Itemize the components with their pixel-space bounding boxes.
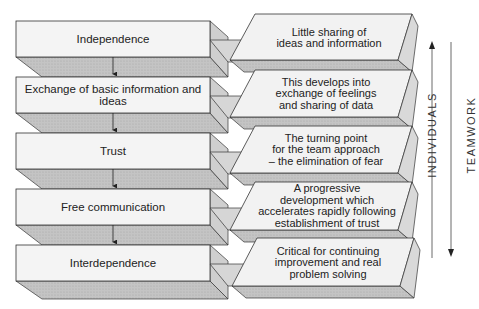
description-1: Little sharing of ideas and information — [255, 18, 403, 58]
description-3-line-3: – the elimination of fear — [269, 156, 383, 168]
stage-label-2: Exchange of basic information and ideas — [16, 77, 210, 113]
stage-label-3: Trust — [16, 133, 210, 169]
description-5-line-3: problem solving — [289, 269, 366, 281]
up-arrow-icon — [429, 41, 435, 49]
description-4-line-1: A progressive — [294, 183, 361, 195]
teamwork-diagram: Independence Exchange of basic informati… — [0, 0, 479, 309]
description-2: This develops into exchange of feelings … — [250, 73, 402, 115]
stage-label-1: Independence — [16, 21, 210, 57]
down-arrow-icon — [448, 249, 454, 257]
description-3: The turning point for the team approach … — [250, 129, 402, 171]
stage-label-4: Free communication — [16, 189, 210, 225]
description-2-line-3: and sharing of data — [279, 100, 373, 112]
stage-label-5: Interdependence — [16, 245, 210, 281]
description-5: Critical for continuing improvement and … — [252, 242, 404, 284]
teamwork-label: TEAMWORK — [465, 90, 479, 180]
description-4: A progressive development which accelera… — [246, 183, 408, 229]
individuals-label: INDIVIDUALS — [426, 90, 440, 180]
description-1-line-2: ideas and information — [276, 38, 381, 50]
description-4-line-3: accelerates rapidly following — [258, 206, 396, 218]
description-4-line-4: establishment of trust — [275, 218, 380, 230]
